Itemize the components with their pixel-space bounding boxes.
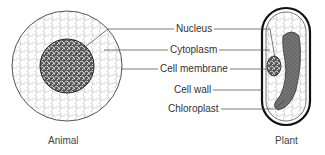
label-chloroplast: Chloroplast [166,103,221,115]
label-nucleus: Nucleus [174,23,214,35]
label-cytoplasm: Cytoplasm [168,44,219,56]
caption-animal: Animal [48,135,79,146]
caption-plant: Plant [275,135,298,146]
label-cell-wall: Cell wall [172,84,213,96]
animal-cell [12,11,122,121]
cell-diagram [0,0,325,155]
plant-cell [262,8,310,125]
label-cell-membrane: Cell membrane [158,63,230,75]
